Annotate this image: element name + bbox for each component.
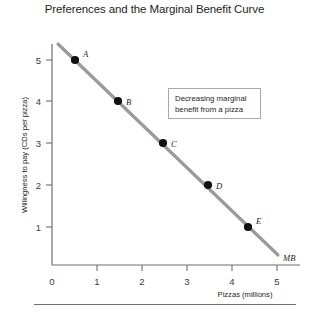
data-point-c [159, 139, 167, 147]
data-point-label-a: A [82, 49, 89, 59]
data-point-a [71, 56, 79, 64]
annotation-line-2: benefit from a pizza [175, 105, 243, 114]
x-axis-title: Pizzas (millions) [218, 290, 273, 299]
annotation-text-wrapper: Decreasing marginal benefit from a pizza [175, 94, 259, 115]
x-tick-label-5: 5 [274, 276, 279, 287]
y-axis-title: Willingness to pay (CDs per pizza) [20, 97, 29, 214]
curve-label-mb: MB [282, 253, 296, 263]
data-point-d [204, 181, 212, 189]
y-tick-label-5: 5 [36, 55, 41, 66]
figure-container: Preferences and the Marginal Benefit Cur… [0, 0, 309, 315]
chart-plot-area: 5 4 3 2 1 0 1 2 3 4 5 Willingness to pay… [0, 0, 309, 315]
y-tick-label-4: 4 [36, 96, 41, 107]
x-tick-label-4: 4 [229, 276, 234, 287]
x-tick-label-2: 2 [139, 276, 144, 287]
bottom-divider-rule [34, 304, 296, 305]
x-tick-label-3: 3 [184, 276, 189, 287]
y-tick-label-2: 2 [36, 180, 41, 191]
data-point-label-b: B [126, 97, 132, 107]
data-point-b [114, 97, 122, 105]
annotation-box: Decreasing marginal benefit from a pizza [168, 88, 261, 119]
x-tick-label-0: 0 [49, 276, 54, 287]
y-tick-label-1: 1 [36, 222, 41, 233]
data-point-label-c: C [171, 139, 177, 149]
marginal-benefit-curve [58, 44, 278, 255]
data-point-e [244, 223, 252, 231]
data-point-label-d: D [215, 181, 223, 191]
data-point-label-e: E [255, 216, 262, 226]
y-tick-label-3: 3 [36, 138, 41, 149]
x-tick-label-1: 1 [94, 276, 99, 287]
annotation-line-1: Decreasing marginal [175, 94, 247, 103]
